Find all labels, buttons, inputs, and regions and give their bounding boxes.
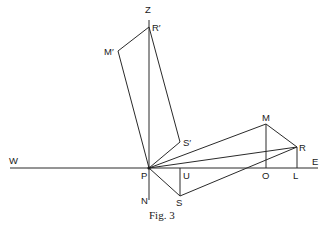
line-p-s: [149, 168, 180, 196]
label-o: O: [262, 170, 269, 181]
label-s: S: [176, 197, 182, 208]
label-w: W: [9, 155, 18, 166]
label-p: P: [141, 170, 147, 181]
label-l: L: [293, 170, 298, 181]
line-m-r: [266, 124, 297, 147]
line-rprime-sprime: [149, 27, 180, 142]
label-m: M: [262, 112, 270, 123]
label-e: E: [312, 156, 318, 167]
point-labels: Z R′ M′ S′ W E P N U S M R O L: [9, 4, 318, 208]
label-u: U: [183, 170, 190, 181]
point-p-dot: [147, 166, 150, 169]
label-z: Z: [145, 4, 151, 15]
label-s-prime: S′: [183, 137, 191, 148]
figure-lines: [10, 20, 318, 200]
label-r: R: [299, 142, 306, 153]
line-rprime-mprime: [118, 27, 149, 51]
label-m-prime: M′: [104, 46, 114, 57]
label-n: N: [141, 195, 148, 206]
label-r-prime: R′: [152, 22, 161, 33]
line-p-r: [149, 147, 297, 168]
figure-caption: Fig. 3: [149, 209, 175, 221]
geometry-figure: Z R′ M′ S′ W E P N U S M R O L Fig. 3: [0, 0, 324, 228]
line-p-m: [149, 124, 266, 168]
line-mprime-p: [118, 51, 149, 168]
line-s-r: [180, 147, 297, 196]
